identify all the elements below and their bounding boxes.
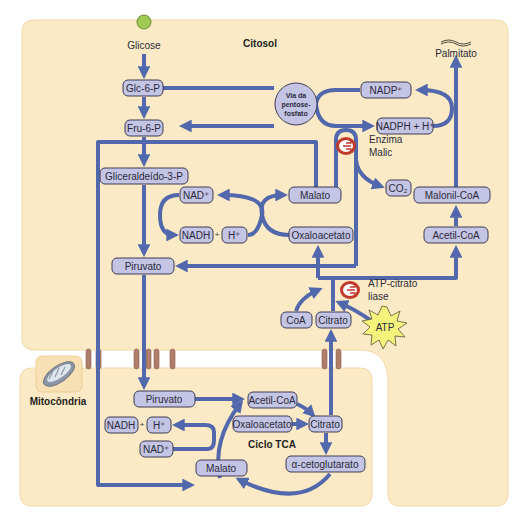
svg-text:CO₂: CO₂ (389, 183, 408, 194)
glucose-icon (137, 15, 151, 29)
svg-text:Enzima: Enzima (369, 134, 403, 145)
nadph-node: NADPH + H⁺ (376, 118, 435, 134)
svg-text:Acetil-CoA: Acetil-CoA (432, 230, 480, 241)
acetil-coa-cyto-node: Acetil-CoA (424, 227, 488, 243)
svg-text:Malato: Malato (206, 463, 236, 474)
cytosol-label: Citosol (243, 38, 277, 49)
oxaloacetato-mito-node: Oxaloacetato (233, 416, 292, 432)
svg-text:Piruvato: Piruvato (146, 394, 183, 405)
pentose-pathway-node: Via da pentose- fosfato (275, 83, 317, 125)
nad-cyto-node: NAD⁺ (180, 187, 213, 203)
svg-text:Oxaloacetato: Oxaloacetato (292, 230, 351, 241)
malato-cyto-node: Malato (289, 187, 341, 203)
svg-text:Glicose: Glicose (127, 40, 161, 51)
svg-text:Piruvato: Piruvato (125, 261, 162, 272)
coa-node: CoA (281, 312, 312, 328)
cetoglutarato-node: α-cetoglutarato (286, 456, 365, 472)
citrato-mito-node: Citrato (309, 416, 342, 432)
mitochondria-icon (36, 356, 82, 392)
svg-text:H⁺: H⁺ (228, 230, 240, 241)
nad-mito-node: NAD⁺ (140, 441, 173, 457)
svg-text:NAD⁺: NAD⁺ (183, 190, 209, 201)
svg-text:Gliceraldeído-3-P: Gliceraldeído-3-P (105, 171, 183, 182)
svg-text:fosfato: fosfato (284, 110, 307, 117)
acetil-coa-mito-node: Acetil-CoA (248, 392, 297, 408)
svg-text:+: + (140, 420, 145, 429)
svg-text:Oxaloacetato: Oxaloacetato (233, 419, 292, 430)
enzyme-icon (336, 137, 356, 155)
svg-text:α-cetoglutarato: α-cetoglutarato (292, 459, 359, 470)
svg-text:pentose-: pentose- (281, 101, 311, 109)
svg-text:Acetil-CoA: Acetil-CoA (248, 395, 296, 406)
svg-text:ATP-citrato: ATP-citrato (368, 278, 418, 289)
citrato-cyto-node: Citrato (316, 312, 351, 328)
svg-text:Via da: Via da (286, 92, 307, 99)
mitochondria-label: Mitocôndria (30, 396, 87, 407)
svg-text:NADP⁺: NADP⁺ (370, 85, 403, 96)
svg-text:Malic: Malic (369, 147, 392, 158)
svg-text:H⁺: H⁺ (153, 420, 165, 431)
svg-text:NAD⁺: NAD⁺ (143, 444, 169, 455)
nadp-node: NADP⁺ (361, 82, 411, 98)
gliceraldeido-node: Gliceraldeído-3-P (100, 168, 188, 184)
svg-text:Citrato: Citrato (318, 315, 348, 326)
piruvato-cyto-node: Piruvato (112, 258, 174, 274)
svg-text:+: + (215, 230, 220, 239)
piruvato-mito-node: Piruvato (134, 391, 195, 407)
svg-text:NADPH + H⁺: NADPH + H⁺ (376, 121, 435, 132)
svg-text:Palmitato: Palmitato (435, 48, 477, 59)
svg-text:Malonil-CoA: Malonil-CoA (425, 190, 480, 201)
svg-text:ATP: ATP (376, 322, 395, 333)
enzyme-icon (340, 281, 360, 299)
svg-text:NADH: NADH (182, 230, 210, 241)
oxaloacetato-cyto-node: Oxaloacetato (289, 227, 353, 243)
svg-text:liase: liase (368, 291, 389, 302)
malato-mito-node: Malato (196, 460, 247, 476)
svg-text:Glc-6-P: Glc-6-P (126, 83, 160, 94)
svg-text:Citrato: Citrato (310, 419, 340, 430)
fru6p-node: Fru-6-P (125, 120, 163, 136)
transporter-icons (86, 349, 341, 369)
malonil-coa-node: Malonil-CoA (414, 187, 490, 203)
glc6p-node: Glc-6-P (123, 80, 163, 96)
svg-text:Fru-6-P: Fru-6-P (127, 123, 161, 134)
tca-cycle-label: Ciclo TCA (248, 439, 296, 450)
svg-text:CoA: CoA (286, 315, 306, 326)
svg-text:NADH: NADH (107, 420, 135, 431)
svg-text:Malato: Malato (300, 190, 330, 201)
co2-node: CO₂ (386, 180, 411, 196)
